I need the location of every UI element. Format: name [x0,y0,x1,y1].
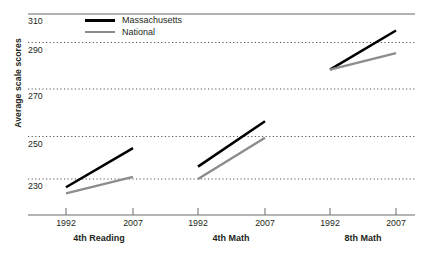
x-tick-label-g2-2007: 2007 [245,218,285,228]
x-tick-label-g2-1992: 1992 [178,218,218,228]
legend-line-icon-massachusetts [85,19,115,22]
x-group-label-8th-math: 8th Math [308,233,418,243]
y-tick-label-310: 310 [28,16,43,26]
series-line-national-8th-math [330,53,396,70]
x-tick-label-g1-1992: 1992 [46,218,86,228]
chart-svg [0,0,424,255]
legend-item-massachusetts: Massachusetts [85,14,182,26]
legend-label-national: National [122,27,155,37]
y-axis-title: Average scale scores [13,13,23,153]
chart-container: 310 290 270 250 230 Average scale scores… [0,0,424,255]
chart-legend: Massachusetts National [85,14,182,38]
series-line-massachusetts-8th-math [330,31,396,70]
x-tick-label-g1-2007: 2007 [113,218,153,228]
x-tick-label-g3-2007: 2007 [376,218,416,228]
legend-item-national: National [85,26,182,38]
y-tick-label-250: 250 [28,139,43,149]
plot-area: 310 290 270 250 230 Average scale scores… [0,0,424,255]
x-group-label-4th-reading: 4th Reading [44,233,154,243]
legend-line-icon-national [85,31,115,34]
x-group-label-4th-math: 4th Math [176,233,286,243]
series-line-national-4th-reading [66,177,133,194]
y-tick-label-270: 270 [28,91,43,101]
series-line-massachusetts-4th-reading [66,148,133,187]
y-tick-label-230: 230 [28,181,43,191]
data-series-layer [66,31,396,194]
legend-label-massachusetts: Massachusetts [122,15,182,25]
x-tick-label-g3-1992: 1992 [310,218,350,228]
y-tick-label-290: 290 [28,45,43,55]
